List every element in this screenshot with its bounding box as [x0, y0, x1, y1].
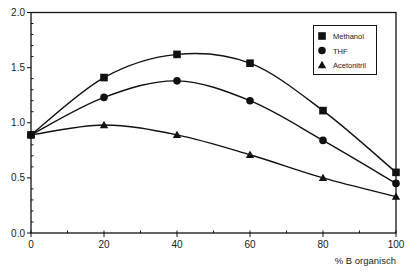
- x-tick-label: 60: [244, 239, 256, 250]
- circle-marker: [392, 180, 400, 188]
- y-tick-label: 2.0: [11, 7, 25, 18]
- y-tick-label: 1.5: [11, 62, 25, 73]
- circle-marker: [319, 137, 327, 145]
- line-chart: 0.00.51.01.52.0 020406080100 % B organis…: [0, 0, 411, 274]
- square-legend-icon: [318, 32, 326, 40]
- x-tick-label: 40: [171, 239, 183, 250]
- square-marker: [246, 59, 254, 67]
- square-marker: [319, 107, 327, 115]
- legend-label: Methanol: [333, 32, 364, 41]
- y-tick-label: 0.0: [11, 228, 25, 239]
- y-tick-label: 0.5: [11, 172, 25, 183]
- legend-label: THF: [333, 47, 348, 56]
- y-tick-label: 1.0: [11, 117, 25, 128]
- x-axis-title: % B organisch: [335, 255, 396, 266]
- x-tick-label: 0: [28, 239, 34, 250]
- square-marker: [392, 169, 400, 177]
- legend: MethanolTHFAcetonitril: [314, 26, 377, 75]
- x-tick-label: 80: [317, 239, 329, 250]
- circle-marker: [246, 97, 254, 105]
- series-line-thf: [31, 81, 396, 184]
- circle-legend-icon: [318, 47, 326, 55]
- legend-label: Acetonitril: [333, 61, 366, 70]
- circle-marker: [173, 77, 181, 85]
- x-tick-label: 100: [388, 239, 405, 250]
- square-marker: [173, 51, 181, 59]
- x-tick-label: 20: [98, 239, 110, 250]
- series-line-acetonitril: [31, 125, 396, 197]
- square-marker: [100, 74, 108, 82]
- y-axis: 0.00.51.01.52.0: [11, 7, 33, 239]
- circle-marker: [100, 94, 108, 102]
